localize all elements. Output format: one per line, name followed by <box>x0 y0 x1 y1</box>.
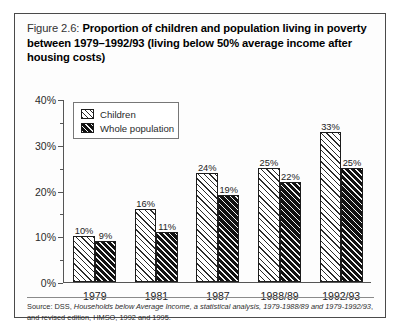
source-line-1-italic: Households below Average Income, a stati… <box>74 302 371 311</box>
y-axis-label: 40% <box>35 94 56 106</box>
x-axis-category-label: 1988/89 <box>261 290 299 302</box>
chart-legend: ChildrenWhole population <box>73 102 179 139</box>
bar-value-label: 22% <box>281 172 300 182</box>
bar-value-label: 25% <box>343 158 362 168</box>
bar-value-label: 25% <box>260 158 279 168</box>
source-divider <box>27 297 374 298</box>
bar-children: 25% <box>258 168 280 282</box>
source-line-2: edition, HMSO, 1992 and 1995. <box>67 313 171 322</box>
bar-value-label: 16% <box>136 199 155 209</box>
bar-whole: 22% <box>280 182 302 282</box>
figure-panel: Figure 2.6: Proportion of children and p… <box>14 13 386 318</box>
bar-children: 24% <box>196 173 218 282</box>
y-tick-major <box>58 283 63 284</box>
bar-value-label: 24% <box>198 163 217 173</box>
y-axis-label: 0% <box>41 277 56 289</box>
legend-item: Whole population <box>81 121 178 135</box>
bar-group: 25%22% <box>248 100 310 282</box>
legend-label: Children <box>100 109 136 120</box>
y-axis-label: 10% <box>35 231 56 243</box>
x-axis-category-label: 1979 <box>83 290 106 302</box>
bar-group: 24%19% <box>186 100 248 282</box>
bar-children: 33% <box>320 132 342 282</box>
bar-whole: 25% <box>341 168 363 282</box>
legend-swatch-children <box>81 109 94 119</box>
bar-value-label: 9% <box>99 231 112 241</box>
x-axis-line <box>63 282 371 283</box>
bar-value-label: 11% <box>158 222 176 232</box>
legend-item: Children <box>81 107 178 121</box>
bar-children: 10% <box>73 236 95 281</box>
y-axis-label: 30% <box>35 140 56 152</box>
x-axis-category-label: 1987 <box>206 290 229 302</box>
figure-caption: Figure 2.6: Proportion of children and p… <box>27 21 372 65</box>
y-axis-label: 20% <box>35 186 56 198</box>
bar-value-label: 10% <box>75 226 94 236</box>
bar-whole: 19% <box>218 195 240 281</box>
bar-value-label: 19% <box>219 185 238 195</box>
x-axis-category-label: 1992/93 <box>322 290 360 302</box>
bar-whole: 9% <box>95 241 117 282</box>
bar-value-label: 33% <box>321 122 340 132</box>
figure-number: Figure 2.6: <box>27 22 79 34</box>
bar-group: 33%25% <box>309 100 371 282</box>
source-note: Source: DSS, Households below Average In… <box>27 302 377 323</box>
bar-children: 16% <box>135 209 157 282</box>
x-axis-category-label: 1981 <box>145 290 168 302</box>
source-line-1-prefix: Source: DSS, <box>27 302 74 311</box>
legend-swatch-whole <box>81 123 94 133</box>
legend-label: Whole population <box>100 123 174 134</box>
bar-whole: 11% <box>156 232 178 282</box>
